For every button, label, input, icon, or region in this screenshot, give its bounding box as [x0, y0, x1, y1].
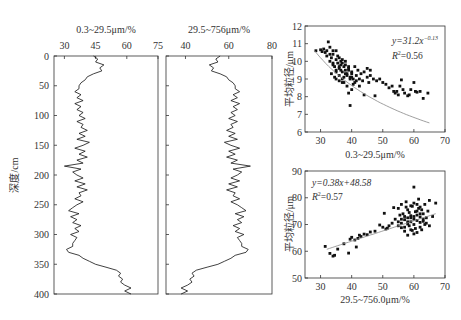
data-point — [416, 203, 419, 206]
data-point — [369, 69, 372, 72]
data-point — [434, 202, 437, 205]
data-point — [325, 49, 328, 52]
profile-b-line — [181, 56, 250, 294]
depth-tick-label: 50 — [39, 80, 49, 91]
profile-a-line — [64, 56, 131, 294]
data-point — [402, 88, 405, 91]
x-tick-label: 40 — [180, 40, 190, 51]
data-point — [417, 198, 420, 201]
data-point — [409, 228, 412, 231]
depth-tick-label: 250 — [34, 199, 49, 210]
data-point — [330, 56, 333, 59]
data-point — [413, 202, 416, 205]
data-point — [403, 226, 406, 229]
y-tick-label: 6 — [297, 127, 302, 138]
data-point — [408, 211, 411, 214]
data-point — [336, 62, 339, 65]
data-point — [406, 234, 409, 237]
x-tick-label: 40 — [347, 135, 357, 146]
data-point — [378, 78, 381, 81]
x-tick-label: 80 — [267, 40, 277, 51]
data-point — [416, 91, 419, 94]
data-point — [399, 214, 402, 217]
data-point — [358, 85, 361, 88]
data-point — [409, 216, 412, 219]
y-tick-label: 8 — [297, 91, 302, 102]
data-point — [374, 230, 377, 233]
data-point — [413, 186, 416, 189]
data-point — [357, 69, 360, 72]
profile-a-title: 0.3~29.5μm/% — [76, 24, 136, 35]
x-tick-label: 60 — [122, 40, 132, 51]
data-point — [427, 210, 430, 213]
x-tick-label: 40 — [347, 281, 357, 292]
data-point — [366, 67, 369, 70]
data-point — [405, 200, 408, 203]
data-point — [408, 94, 411, 97]
data-point — [329, 60, 332, 63]
x-tick-label: 60 — [409, 281, 419, 292]
data-point — [419, 206, 422, 209]
data-point — [361, 79, 364, 82]
data-point — [422, 212, 425, 215]
x-tick-label: 70 — [440, 281, 450, 292]
data-point — [409, 204, 412, 207]
data-point — [347, 65, 350, 68]
y-tick-label: 90 — [292, 166, 302, 177]
data-point — [350, 236, 353, 239]
y-tick-label: 9 — [297, 74, 302, 85]
data-point — [350, 88, 353, 91]
y-tick-label: 11 — [292, 38, 302, 49]
data-point — [422, 97, 425, 100]
depth-tick-label: 300 — [34, 229, 49, 240]
data-point — [360, 72, 363, 75]
x-tick-label: 30 — [316, 281, 326, 292]
data-point — [347, 92, 350, 95]
data-point — [363, 71, 366, 74]
data-point — [403, 218, 406, 221]
profile-b-frame — [166, 56, 272, 294]
data-point — [391, 85, 394, 88]
x-tick-label: 60 — [224, 40, 234, 51]
data-point — [394, 218, 397, 221]
data-point — [431, 215, 434, 218]
data-point — [350, 72, 353, 75]
data-point — [391, 222, 394, 225]
data-point — [397, 220, 400, 223]
data-point — [413, 233, 416, 236]
data-point — [344, 69, 347, 72]
profile-a-frame — [54, 56, 158, 294]
data-point — [427, 92, 430, 95]
depth-profile-coarse-fraction: 29.5~756μm/% 406080 — [166, 24, 277, 294]
data-point — [423, 203, 426, 206]
depth-tick-label: 200 — [34, 170, 49, 181]
depth-tick-label: 400 — [34, 289, 49, 300]
data-point — [388, 224, 391, 227]
scatter-b-y-label: 平均粒径/μm — [283, 196, 295, 252]
data-point — [406, 208, 409, 211]
figure: 0.3~29.5μm/% 30456075 050100150200250300… — [0, 0, 461, 320]
data-point — [406, 216, 409, 219]
scatter-b-r2: R2=0.57 — [311, 191, 343, 202]
data-point — [400, 226, 403, 229]
scatter-a-equation: y=31.2x−0.13 — [391, 35, 438, 46]
data-point — [353, 65, 356, 68]
data-point — [374, 94, 377, 97]
data-point — [400, 203, 403, 206]
data-point — [338, 65, 341, 68]
data-point — [322, 48, 325, 51]
data-point — [419, 212, 422, 215]
data-point — [335, 49, 338, 52]
data-point — [321, 50, 324, 53]
data-point — [344, 60, 347, 63]
data-point — [346, 85, 349, 88]
data-point — [327, 41, 330, 44]
data-point — [347, 252, 350, 255]
data-point — [329, 252, 332, 255]
x-tick-label: 50 — [378, 135, 388, 146]
data-point — [400, 79, 403, 82]
data-point — [416, 231, 419, 234]
data-point — [341, 58, 344, 61]
depth-axis-label: 深度/cm — [8, 157, 20, 192]
scatter-a-y-label: 平均粒径/μm — [283, 51, 295, 107]
